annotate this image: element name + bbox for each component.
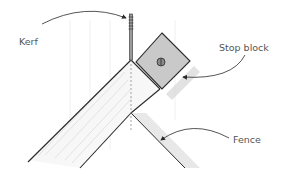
fence-leader-arrow xyxy=(161,128,229,140)
stop-block-label: Stop block xyxy=(219,43,269,53)
kerf-leader-arrow xyxy=(42,11,126,24)
fence-right xyxy=(131,113,200,168)
kerf-label: Kerf xyxy=(19,37,38,47)
miter-stop-block-diagram xyxy=(0,0,289,177)
fence-label: Fence xyxy=(233,135,261,145)
